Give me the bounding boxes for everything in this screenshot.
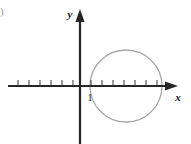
x-tick-label-one: 1: [88, 92, 93, 103]
y-axis-arrowhead: [75, 9, 84, 22]
y-axis-label: y: [66, 8, 73, 20]
coordinate-plane-svg: y x 1 ): [0, 0, 191, 144]
corner-artifact-mark: ): [0, 5, 4, 18]
x-axis-label: x: [174, 91, 181, 103]
x-axis-arrowhead: [165, 81, 178, 90]
figure-container: y x 1 ): [0, 0, 191, 144]
